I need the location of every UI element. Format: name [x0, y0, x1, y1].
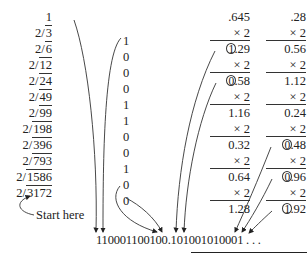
arrows-overlay	[0, 0, 307, 260]
arrow-remainder-to-bit	[116, 186, 157, 232]
arrow-circled-to-bit	[249, 211, 272, 233]
arrow-circled-to-bit	[176, 51, 215, 232]
arrow-circled-to-bit	[235, 147, 271, 232]
arrow-circled-to-bit	[184, 83, 216, 232]
arrow-top-to-first-bit	[74, 20, 96, 232]
arrow-remainder-to-bit	[126, 198, 162, 232]
arrow-remainder-to-bit	[103, 38, 121, 232]
start-here-arrow	[20, 196, 34, 215]
